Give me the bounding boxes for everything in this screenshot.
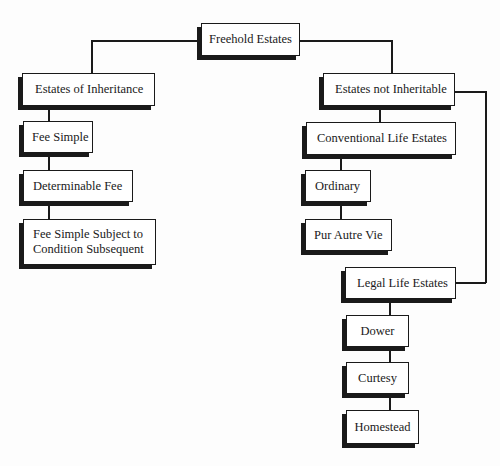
freehold-estates-diagram: Freehold Estates Estates of Inheritance …	[0, 0, 500, 466]
connector-root-horizontal	[91, 40, 202, 42]
node-curtesy: Curtesy	[346, 362, 409, 394]
connector-curtesy-to-homestead	[389, 394, 391, 410]
node-conventional-life-estates: Conventional Life Estates	[306, 122, 456, 155]
connector-left-chain-3	[48, 202, 50, 219]
node-fee-simple-subject-to-condition-subsequent: Fee Simple Subject to Condition Subseque…	[23, 219, 156, 265]
connector-bracket-bottom	[456, 282, 486, 284]
node-dower: Dower	[346, 315, 409, 347]
node-fee-simple: Fee Simple	[23, 121, 93, 153]
connector-ordinary-to-pur-autre-vie	[340, 202, 342, 219]
connector-dower-to-curtesy	[389, 347, 391, 362]
connector-left-chain-2	[48, 153, 50, 170]
node-freehold-estates: Freehold Estates	[201, 23, 300, 56]
connector-bracket-vertical	[485, 91, 487, 283]
connector-legal-to-dower	[389, 299, 391, 315]
connector-root-to-inheritance	[91, 40, 93, 73]
node-homestead: Homestead	[346, 410, 419, 444]
connector-left-chain-1	[48, 106, 50, 121]
node-ordinary: Ordinary	[305, 170, 371, 202]
node-legal-life-estates: Legal Life Estates	[345, 267, 456, 299]
connector-conventional-to-ordinary	[340, 155, 342, 170]
connector-bracket-top	[455, 91, 486, 93]
node-estates-not-inheritable: Estates not Inheritable	[323, 73, 455, 106]
node-pur-autre-vie: Pur Autre Vie	[305, 219, 392, 251]
node-determinable-fee: Determinable Fee	[23, 170, 133, 202]
node-estates-of-inheritance: Estates of Inheritance	[22, 73, 155, 106]
connector-root-to-not-inheritable	[391, 40, 393, 73]
connector-not-inheritable-to-conventional	[379, 106, 381, 122]
connector-root-horizontal-right	[300, 40, 392, 42]
